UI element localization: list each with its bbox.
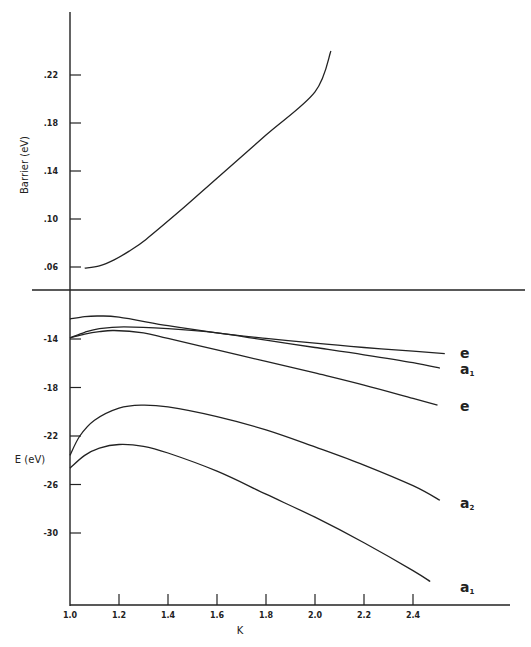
x-tick-label: 2.0 [308, 611, 323, 620]
upper-y-axis-title: Barrier (eV) [19, 136, 30, 194]
y-tick-label: .22 [44, 71, 58, 80]
series-line-barrier [85, 51, 331, 268]
y-tick-label: -30 [44, 529, 59, 538]
y-tick-label: -26 [44, 481, 59, 490]
series-line-a1 [70, 327, 440, 368]
x-tick-label: 2.4 [406, 611, 421, 620]
series-line-a1 [70, 444, 430, 581]
y-tick-label: -22 [44, 432, 58, 441]
x-tick-label: 1.8 [259, 611, 274, 620]
y-tick-label: -18 [44, 384, 59, 393]
y-tick-label: -14 [44, 335, 59, 344]
lower-y-axis-title: E (eV) [15, 454, 45, 465]
curve-label-e: e [460, 345, 470, 361]
energy-curves [70, 316, 445, 582]
barrier-energy-chart: .06.10.14.18.22 -14-18-22-26-30 1.01.21.… [0, 0, 531, 647]
curve-label-a2: a2 [460, 495, 474, 512]
lower-y-ticks: -14-18-22-26-30 [44, 335, 81, 538]
curve-labels: ea1ea2a1 [460, 345, 474, 596]
x-tick-label: 2.2 [357, 611, 371, 620]
series-line-a2 [70, 405, 440, 500]
y-tick-label: .14 [44, 167, 59, 176]
x-tick-label: 1.6 [210, 611, 225, 620]
y-tick-label: .18 [44, 119, 59, 128]
curve-label-a1: a1 [460, 579, 474, 596]
y-tick-label: .10 [44, 215, 59, 224]
x-tick-label: 1.2 [112, 611, 126, 620]
x-tick-label: 1.0 [63, 611, 78, 620]
x-ticks: 1.01.21.41.61.82.02.22.4 [63, 594, 421, 620]
y-tick-label: .06 [44, 263, 59, 272]
curve-label-e: e [460, 398, 470, 414]
x-tick-label: 1.4 [161, 611, 176, 620]
upper-y-ticks: .06.10.14.18.22 [44, 71, 81, 272]
series-line-e [70, 330, 438, 405]
x-axis-title: K [237, 625, 244, 636]
curve-label-a1: a1 [460, 361, 474, 378]
barrier-curve [85, 51, 331, 268]
series-line-e [70, 316, 445, 354]
